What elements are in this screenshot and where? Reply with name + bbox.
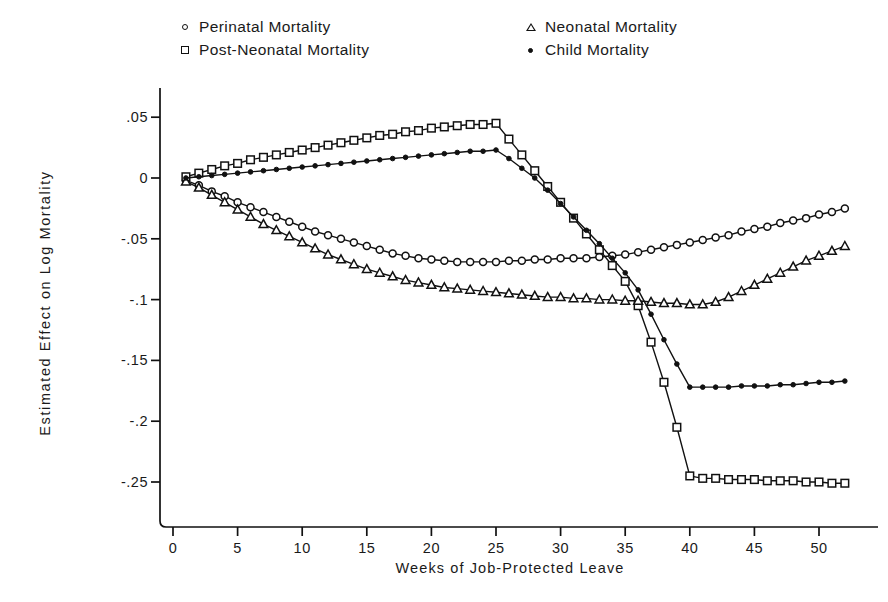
square-open-marker [699,475,707,483]
dot-filled-marker [520,166,525,171]
series-line [186,180,845,261]
dot-filled-marker [584,228,589,233]
dot-filled-marker [197,174,202,179]
circle-open-marker [454,258,461,265]
circle-open-marker [570,255,577,262]
square-open-marker [376,132,384,140]
dot-filled-marker [416,154,421,159]
square-open-marker [789,477,797,485]
circle-open-marker [841,205,848,212]
square-open-marker [415,127,423,135]
y-axis-tick-label: .05 [60,109,148,125]
dot-filled-marker [209,173,214,178]
circle-open-marker [467,258,474,265]
dot-filled-marker [545,188,550,193]
square-open-marker [621,278,629,286]
circle-open-marker [480,258,487,265]
x-axis-tick-label: 30 [552,540,569,556]
triangle-open-marker [285,232,294,240]
square-open-marker [751,476,759,484]
x-axis-tick-label: 50 [810,540,827,556]
x-axis-tick-label: 40 [681,540,698,556]
dot-filled-marker [184,176,189,181]
dot-filled-marker [390,156,395,161]
square-open-marker [298,146,306,154]
dot-filled-marker [481,149,486,154]
square-open-marker [492,119,500,127]
x-axis-tick-label: 45 [746,540,763,556]
square-open-marker [608,262,616,270]
circle-open-marker [725,232,732,239]
dot-filled-marker [636,288,641,293]
circle-open-marker [350,239,357,246]
circle-open-marker [790,217,797,224]
dot-filled-marker [830,380,835,385]
square-open-marker [221,162,229,170]
triangle-open-marker [259,220,268,228]
square-open-marker [738,476,746,484]
triangle-open-marker [789,262,798,270]
triangle-open-marker [737,286,746,294]
dot-filled-marker [597,241,602,246]
dot-filled-marker [726,385,731,390]
circle-open-marker [816,211,823,218]
circle-open-marker [402,252,409,259]
circle-open-marker [803,215,810,222]
dot-filled-marker [248,170,253,175]
dot-filled-marker [274,167,279,172]
square-open-marker [234,160,242,168]
dot-filled-marker [365,159,370,164]
series-child-mortality [184,148,848,390]
circle-open-marker [686,239,693,246]
triangle-open-marker [840,241,849,249]
dot-filled-marker [662,337,667,342]
dot-filled-marker [429,153,434,158]
y-axis-tick-label: 0 [60,170,148,186]
square-open-marker [518,151,526,159]
dot-filled-marker [675,362,680,367]
square-open-marker [285,149,293,157]
dot-filled-marker [313,164,318,169]
dot-filled-marker [571,215,576,220]
square-open-marker [453,122,461,130]
x-axis-tick-label: 15 [358,540,375,556]
dot-filled-marker [532,176,537,181]
triangle-open-marker [272,226,281,234]
square-open-marker [505,135,513,143]
square-open-marker [389,130,397,138]
dot-filled-marker [558,201,563,206]
dot-filled-marker [494,148,499,153]
dot-filled-marker [843,379,848,384]
x-axis-tick-label: 35 [617,540,634,556]
y-axis-tick-label: -.25 [60,474,148,490]
circle-open-marker [622,251,629,258]
square-open-marker [828,479,836,487]
dot-filled-marker [804,381,809,386]
square-open-marker [402,128,410,136]
circle-open-marker [712,234,719,241]
circle-open-marker [312,228,319,235]
circle-open-marker [247,204,254,211]
circle-open-marker [518,257,525,264]
series-line [186,123,845,483]
circle-open-marker [376,246,383,253]
square-open-marker [686,472,694,480]
square-open-marker [647,338,655,346]
circle-open-marker [635,249,642,256]
circle-open-marker [441,257,448,264]
circle-open-marker [273,213,280,220]
triangle-open-marker [298,238,307,246]
dot-filled-marker [700,385,705,390]
circle-open-marker [389,250,396,257]
x-axis-tick-label: 20 [423,540,440,556]
chart-figure: Perinatal Mortality Post-Neonatal Mortal… [0,0,888,602]
circle-open-marker [596,254,603,261]
square-open-marker [673,423,681,431]
y-axis-tick-label: -.05 [60,231,148,247]
square-open-marker [273,151,281,159]
dot-filled-marker [235,171,240,176]
y-axis-tick-label: -.1 [60,292,148,308]
square-open-marker [311,144,319,152]
square-open-marker [841,479,849,487]
x-axis-tick-label: 10 [294,540,311,556]
